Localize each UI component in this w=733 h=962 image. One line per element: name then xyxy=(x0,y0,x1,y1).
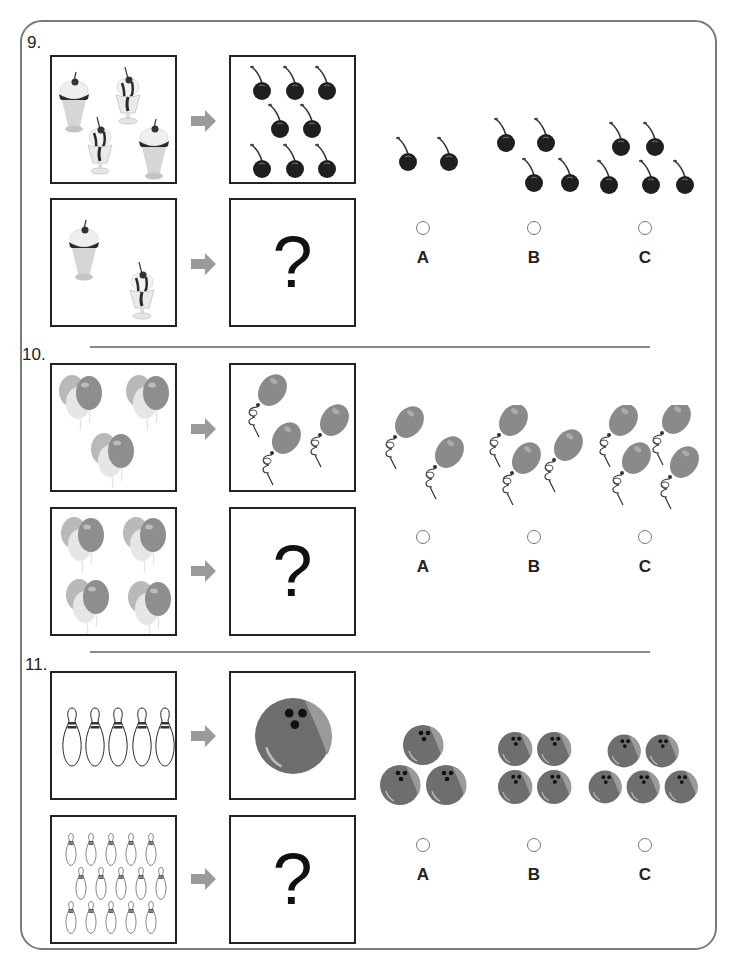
sundae-box-4 xyxy=(50,55,177,184)
question-number: 10. xyxy=(22,345,46,365)
question-number: 9. xyxy=(27,33,41,53)
section-divider xyxy=(90,651,650,653)
radio-option-c[interactable] xyxy=(638,221,652,235)
option-label-b: B xyxy=(519,248,549,268)
ice-cream-sundae-group-icon xyxy=(52,57,177,184)
bowling-pin-box-15 xyxy=(50,815,177,944)
answer-box: ? xyxy=(229,198,356,327)
balloon-group-icon xyxy=(485,405,595,515)
arrow-right-icon xyxy=(191,418,217,440)
question-mark: ? xyxy=(231,839,354,919)
balloon-group-icon xyxy=(595,405,710,515)
balloon-group-icon xyxy=(231,365,356,492)
arrow-right-icon xyxy=(191,253,217,275)
cherry-group-icon xyxy=(485,105,595,195)
question-number: 11. xyxy=(25,655,47,675)
cherry-group-icon xyxy=(385,120,495,180)
radio-option-b[interactable] xyxy=(527,221,541,235)
bowling-ball-group-icon xyxy=(588,725,708,815)
bowling-ball-group-icon xyxy=(490,725,600,815)
balloon-bunch-box-4 xyxy=(50,507,177,636)
bowling-ball-box-1 xyxy=(229,671,356,800)
radio-option-a[interactable] xyxy=(416,530,430,544)
bowling-ball-icon xyxy=(231,673,356,800)
answer-box: ? xyxy=(229,507,356,636)
bowling-pin-group-icon xyxy=(52,673,177,800)
bowling-ball-group-icon xyxy=(378,725,488,815)
section-divider xyxy=(90,346,650,348)
option-label-a: A xyxy=(408,865,438,885)
radio-option-c[interactable] xyxy=(638,838,652,852)
radio-option-c[interactable] xyxy=(638,530,652,544)
radio-option-a[interactable] xyxy=(416,838,430,852)
balloon-box-3 xyxy=(229,363,356,492)
cherry-group-icon xyxy=(592,105,707,195)
radio-option-b[interactable] xyxy=(527,838,541,852)
option-label-b: B xyxy=(519,557,549,577)
answer-box: ? xyxy=(229,815,356,944)
question-mark: ? xyxy=(231,222,354,302)
radio-option-a[interactable] xyxy=(416,221,430,235)
arrow-right-icon xyxy=(191,560,217,582)
arrow-right-icon xyxy=(191,725,217,747)
arrow-right-icon xyxy=(191,110,217,132)
bowling-pin-box-5 xyxy=(50,671,177,800)
question-mark: ? xyxy=(231,531,354,611)
cherry-group-icon xyxy=(231,57,356,184)
balloon-bunch-box-3 xyxy=(50,363,177,492)
option-label-c: C xyxy=(630,865,660,885)
option-label-a: A xyxy=(408,248,438,268)
option-label-c: C xyxy=(630,248,660,268)
arrow-right-icon xyxy=(191,868,217,890)
balloon-group-icon xyxy=(378,405,488,515)
sundae-box-2 xyxy=(50,198,177,327)
option-label-a: A xyxy=(408,557,438,577)
bowling-pin-group-icon xyxy=(52,817,177,944)
radio-option-b[interactable] xyxy=(527,530,541,544)
cherry-box-8 xyxy=(229,55,356,184)
option-label-c: C xyxy=(630,557,660,577)
balloon-bunch-group-icon xyxy=(52,509,177,636)
balloon-bunch-group-icon xyxy=(52,365,177,492)
ice-cream-sundae-group-icon xyxy=(52,200,177,327)
option-label-b: B xyxy=(519,865,549,885)
